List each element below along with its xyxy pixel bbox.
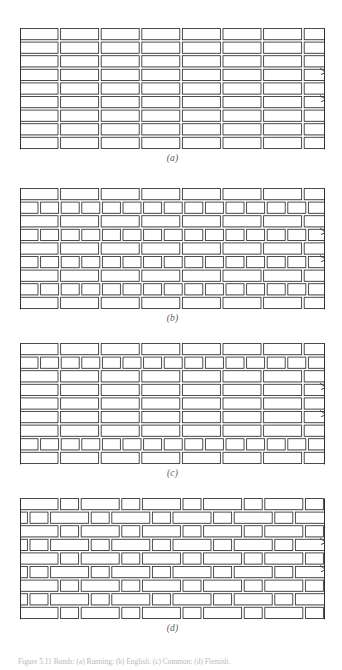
brick bbox=[142, 124, 180, 135]
brick bbox=[144, 202, 162, 213]
brick bbox=[226, 439, 244, 450]
brick bbox=[205, 357, 223, 368]
brick bbox=[182, 270, 220, 281]
brick bbox=[182, 425, 220, 436]
brick bbox=[61, 83, 99, 94]
brick bbox=[61, 357, 79, 368]
brick bbox=[223, 42, 261, 53]
brick bbox=[20, 594, 27, 605]
brick bbox=[61, 412, 99, 423]
brick bbox=[305, 580, 323, 591]
brick bbox=[247, 357, 265, 368]
brick bbox=[247, 229, 265, 240]
brick bbox=[82, 357, 100, 368]
brick bbox=[223, 243, 261, 254]
bond-panel-b: (b) bbox=[20, 187, 325, 311]
brick bbox=[288, 229, 306, 240]
brick bbox=[142, 83, 180, 94]
brick bbox=[101, 56, 139, 67]
brick bbox=[264, 398, 302, 409]
brick bbox=[304, 56, 325, 67]
brick bbox=[183, 553, 201, 564]
brick bbox=[267, 257, 285, 268]
brick bbox=[142, 398, 180, 409]
brick bbox=[226, 357, 244, 368]
brick bbox=[295, 594, 325, 605]
brick bbox=[101, 97, 139, 108]
brick bbox=[20, 607, 58, 618]
brick bbox=[223, 29, 261, 40]
brick bbox=[265, 553, 303, 564]
brick bbox=[185, 229, 203, 240]
brick bbox=[264, 56, 302, 67]
brick bbox=[305, 499, 323, 510]
brick bbox=[30, 567, 48, 578]
brick bbox=[20, 229, 38, 240]
brick bbox=[152, 567, 170, 578]
brick bbox=[20, 29, 58, 40]
brick bbox=[101, 110, 139, 121]
brick bbox=[164, 202, 182, 213]
brick bbox=[41, 202, 59, 213]
brick bbox=[41, 257, 59, 268]
brick bbox=[265, 499, 303, 510]
brick bbox=[61, 297, 99, 308]
brick bbox=[205, 229, 223, 240]
brick bbox=[223, 297, 261, 308]
brick bbox=[223, 97, 261, 108]
brick bbox=[164, 229, 182, 240]
brick bbox=[182, 69, 220, 80]
brick bbox=[91, 567, 109, 578]
brick bbox=[20, 526, 58, 537]
brick bbox=[51, 567, 89, 578]
brick bbox=[144, 357, 162, 368]
brick bbox=[61, 398, 99, 409]
brick bbox=[144, 257, 162, 268]
brick bbox=[204, 607, 242, 618]
brick bbox=[20, 580, 58, 591]
brick bbox=[244, 526, 262, 537]
brick bbox=[101, 83, 139, 94]
brick bbox=[20, 110, 58, 121]
brick bbox=[20, 56, 58, 67]
brick bbox=[173, 512, 211, 523]
brick bbox=[304, 371, 325, 382]
brick bbox=[304, 29, 325, 40]
brick bbox=[20, 137, 58, 148]
brick bbox=[101, 425, 139, 436]
brick bbox=[264, 69, 302, 80]
brick bbox=[61, 137, 99, 148]
brick bbox=[142, 29, 180, 40]
brick bbox=[41, 284, 59, 295]
brick bbox=[308, 229, 325, 240]
brick bbox=[288, 202, 306, 213]
brick bbox=[123, 284, 141, 295]
brick bbox=[247, 257, 265, 268]
brick bbox=[295, 539, 325, 550]
brick bbox=[264, 452, 302, 463]
brick bbox=[308, 202, 325, 213]
brick bbox=[142, 371, 180, 382]
brick bbox=[304, 384, 325, 395]
brick bbox=[204, 580, 242, 591]
brick bbox=[204, 526, 242, 537]
brick bbox=[267, 357, 285, 368]
brick bbox=[265, 580, 303, 591]
brick bbox=[305, 553, 323, 564]
brick bbox=[61, 344, 99, 355]
brick bbox=[142, 110, 180, 121]
brick bbox=[51, 539, 89, 550]
brick bbox=[20, 398, 58, 409]
brick bbox=[223, 425, 261, 436]
brick bbox=[61, 243, 99, 254]
brick bbox=[304, 243, 325, 254]
brick bbox=[41, 357, 59, 368]
brick bbox=[264, 425, 302, 436]
brick bbox=[91, 512, 109, 523]
brick bbox=[20, 344, 58, 355]
brick bbox=[112, 539, 150, 550]
brick bbox=[61, 124, 99, 135]
brick bbox=[183, 607, 201, 618]
brick bbox=[20, 202, 38, 213]
brick bbox=[223, 189, 261, 200]
